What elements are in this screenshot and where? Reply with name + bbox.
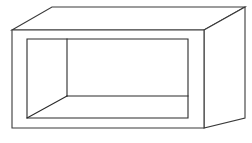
- open-box-drawing: Open rectangular box Line drawing of an …: [0, 0, 252, 143]
- figure-canvas: Open rectangular box Line drawing of an …: [0, 0, 252, 143]
- box-opening-frame: [27, 39, 188, 118]
